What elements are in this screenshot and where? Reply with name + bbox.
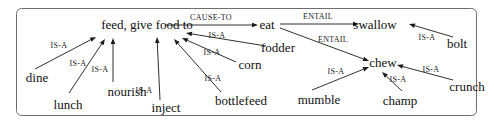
- node-inject: inject: [152, 100, 181, 115]
- node-fodder: fodder: [261, 40, 296, 55]
- node-lunch: lunch: [54, 97, 83, 112]
- edge-label: IS-A: [328, 67, 345, 76]
- edge-label: IS-A: [390, 75, 407, 84]
- node-mumble: mumble: [298, 92, 341, 107]
- node-crunch: crunch: [449, 79, 485, 94]
- node-bolt: bolt: [447, 36, 468, 51]
- node-chew: chew: [369, 55, 397, 70]
- node-nourish: nourish: [108, 84, 148, 99]
- node-bottlefeed: bottlefeed: [215, 93, 267, 108]
- edge-label: CAUSE-TO: [190, 13, 232, 22]
- edge-label: IS-A: [204, 48, 221, 57]
- semantic-relation-diagram: CAUSE-TOENTAILENTAILIS-AIS-AIS-AIS-AIS-A…: [0, 0, 494, 123]
- node-dine: dine: [26, 70, 49, 85]
- edge-label: IS-A: [51, 41, 68, 50]
- edge-label: IS-A: [209, 31, 226, 40]
- node-corn: corn: [238, 57, 262, 72]
- edge-label: IS-A: [205, 74, 222, 83]
- node-eat: eat: [259, 17, 275, 32]
- node-feed: feed, give food to: [101, 17, 193, 32]
- edge-label: IS-A: [70, 59, 87, 68]
- edge-label: IS-A: [92, 65, 109, 74]
- edge-label: ENTAIL: [303, 12, 333, 21]
- node-champ: champ: [383, 93, 418, 108]
- edge-label: IS-A: [419, 33, 436, 42]
- node-swallow: swallow: [353, 17, 397, 32]
- edge-label: IS-A: [423, 65, 440, 74]
- edge-label: ENTAIL: [318, 35, 348, 44]
